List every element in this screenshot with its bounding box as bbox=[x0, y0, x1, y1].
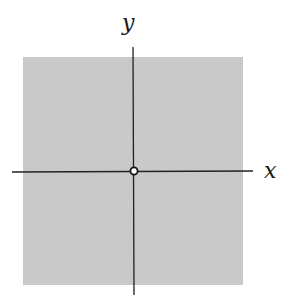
y-axis-label: y bbox=[121, 10, 135, 35]
origin-point bbox=[130, 167, 137, 174]
diagram-canvas: x y bbox=[0, 0, 287, 305]
x-axis-label: x bbox=[264, 158, 277, 183]
